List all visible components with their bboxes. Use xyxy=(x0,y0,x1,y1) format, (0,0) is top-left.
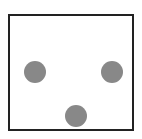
dot-left xyxy=(24,61,46,83)
dot-right xyxy=(101,61,123,83)
dot-bottom xyxy=(65,105,87,127)
